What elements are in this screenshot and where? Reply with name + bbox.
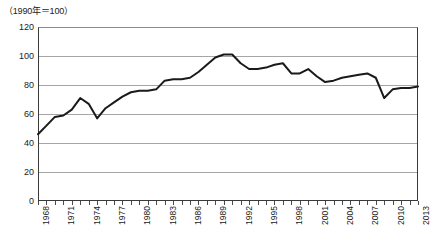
x-tick-1988 (207, 201, 208, 205)
x-tick-label-1968: 1968 (42, 206, 51, 225)
x-tick-label-2004: 2004 (346, 206, 355, 225)
x-tick-2001 (317, 201, 318, 205)
x-tick-2006 (359, 201, 360, 205)
x-tick-label-1974: 1974 (93, 206, 102, 225)
y-tick-label-60: 60 (0, 110, 34, 119)
x-tick-2002 (325, 201, 326, 205)
y-tick-label-120: 120 (0, 23, 34, 32)
x-tick-1999 (300, 201, 301, 205)
x-tick-2005 (350, 201, 351, 205)
x-tick-1993 (249, 201, 250, 205)
x-tick-1981 (148, 201, 149, 205)
x-tick-1980 (139, 201, 140, 205)
x-tick-label-1998: 1998 (295, 206, 304, 225)
x-tick-1983 (165, 201, 166, 205)
x-tick-1989 (215, 201, 216, 205)
y-axis-labels: 020406080100120 (0, 27, 34, 201)
x-tick-label-1983: 1983 (169, 206, 178, 225)
x-tick-2004 (342, 201, 343, 205)
x-tick-1991 (232, 201, 233, 205)
x-tick-1969 (46, 201, 47, 205)
x-tick-1978 (122, 201, 123, 205)
x-tick-2011 (401, 201, 402, 205)
x-tick-1975 (97, 201, 98, 205)
x-tick-1984 (173, 201, 174, 205)
x-tick-1976 (106, 201, 107, 205)
x-tick-1979 (131, 201, 132, 205)
x-tick-label-1980: 1980 (143, 206, 152, 225)
x-tick-1997 (283, 201, 284, 205)
x-tick-label-1971: 1971 (67, 206, 76, 225)
x-tick-2007 (367, 201, 368, 205)
x-tick-1974 (89, 201, 90, 205)
x-tick-1971 (63, 201, 64, 205)
x-tick-label-2001: 2001 (321, 206, 330, 225)
x-tick-2013 (418, 201, 419, 205)
x-tick-label-2007: 2007 (371, 206, 380, 225)
plot-area (38, 27, 418, 201)
x-tick-1994 (258, 201, 259, 205)
x-tick-2003 (334, 201, 335, 205)
x-tick-1986 (190, 201, 191, 205)
x-tick-2008 (376, 201, 377, 205)
y-tick-label-0: 0 (0, 197, 34, 206)
series-line-index (38, 55, 418, 135)
y-tick-label-40: 40 (0, 139, 34, 148)
series-line-group (38, 27, 418, 201)
y-tick-label-80: 80 (0, 81, 34, 90)
x-tick-1992 (241, 201, 242, 205)
x-tick-2012 (410, 201, 411, 205)
line-chart: （1990年＝100） 020406080100120 196819711974… (0, 0, 433, 232)
x-tick-2010 (393, 201, 394, 205)
x-tick-2009 (384, 201, 385, 205)
x-tick-label-1977: 1977 (118, 206, 127, 225)
x-tick-label-2013: 2013 (422, 206, 431, 225)
x-tick-1982 (156, 201, 157, 205)
y-tick-label-100: 100 (0, 52, 34, 61)
x-tick-1970 (55, 201, 56, 205)
x-tick-label-2010: 2010 (397, 206, 406, 225)
x-tick-1996 (274, 201, 275, 205)
x-tick-label-1986: 1986 (194, 206, 203, 225)
x-tick-label-1995: 1995 (270, 206, 279, 225)
x-tick-label-1989: 1989 (219, 206, 228, 225)
x-tick-label-1992: 1992 (245, 206, 254, 225)
x-tick-1968 (38, 201, 39, 205)
unit-note: （1990年＝100） (4, 4, 73, 17)
x-tick-1973 (80, 201, 81, 205)
x-tick-1998 (291, 201, 292, 205)
x-tick-1995 (266, 201, 267, 205)
x-tick-1987 (198, 201, 199, 205)
y-tick-label-20: 20 (0, 168, 34, 177)
x-tick-2000 (308, 201, 309, 205)
x-tick-1985 (182, 201, 183, 205)
x-tick-1990 (224, 201, 225, 205)
x-tick-1977 (114, 201, 115, 205)
x-tick-1972 (72, 201, 73, 205)
x-axis-labels: 1968197119741977198019831986198919921995… (38, 206, 418, 232)
